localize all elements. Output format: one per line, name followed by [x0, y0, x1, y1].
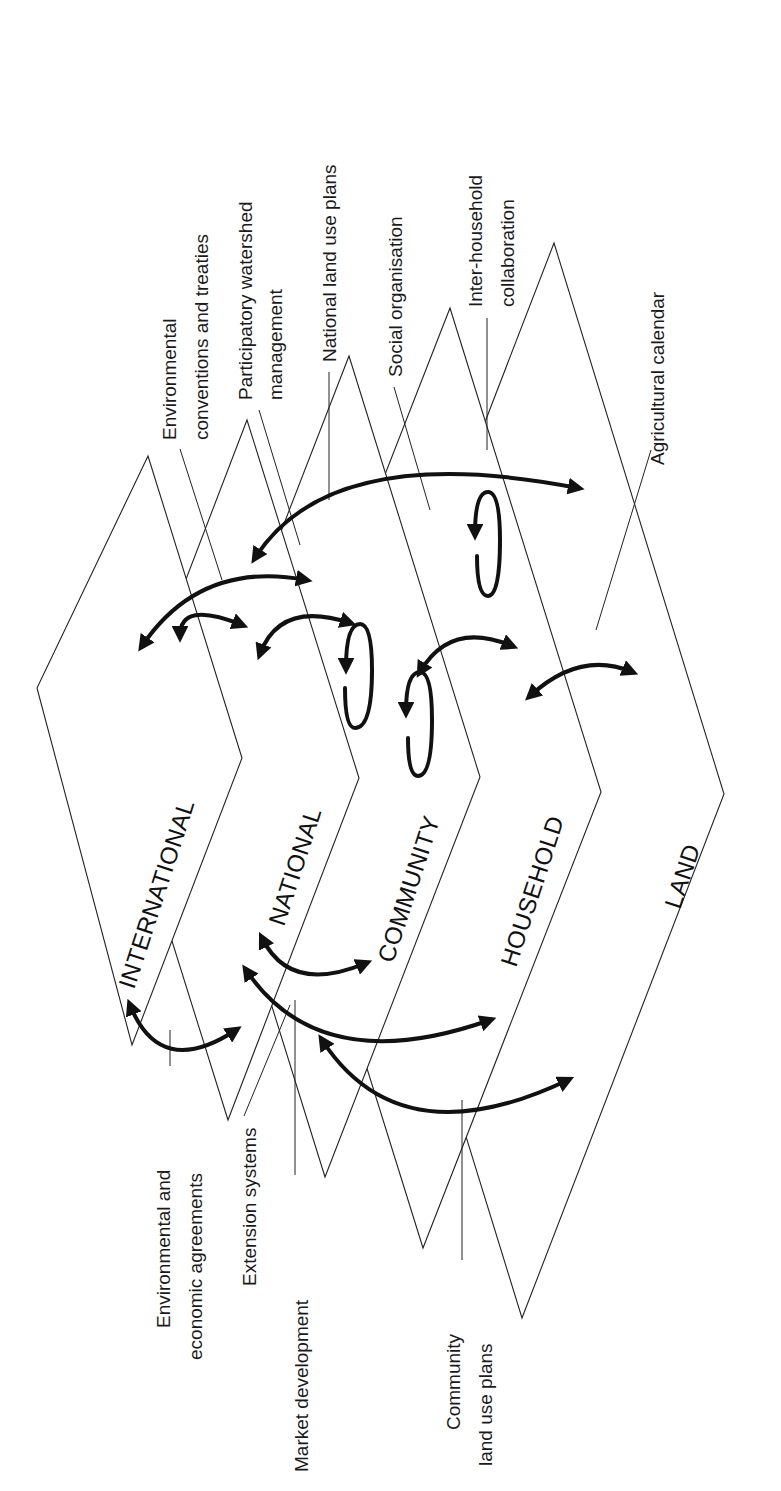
label-agri-calendar: Agricultural calendar: [647, 291, 668, 465]
label-market: Market development: [291, 1299, 312, 1472]
label-env-agreements-1: Environmental and: [153, 1170, 174, 1328]
label-env-agreements-2: economic agreements: [185, 1173, 206, 1360]
label-social-org: Social organisation: [385, 216, 406, 377]
label-community-plans-2: land use plans: [475, 1343, 496, 1466]
label-national-land-use: National land use plans: [319, 164, 340, 362]
label-env-conventions-1: Environmental: [159, 319, 180, 440]
label-inter-household-2: collaboration: [497, 199, 518, 307]
label-env-conventions-2: conventions and treaties: [191, 234, 212, 440]
label-community-plans-1: Community: [443, 1333, 464, 1430]
label-participatory-2: management: [265, 288, 286, 400]
multi-level-diagram: INTERNATIONAL NATIONAL COMMUNITY HOUSEHO…: [0, 0, 781, 1491]
label-inter-household-1: Inter-household: [465, 175, 486, 307]
label-extension: Extension systems: [239, 1128, 260, 1286]
label-participatory-1: Participatory watershed: [235, 201, 256, 400]
